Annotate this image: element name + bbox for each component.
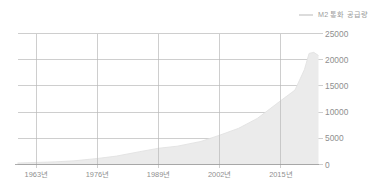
x-axis-labels: 1963년1976년1989년2002년2015년 [0,0,372,196]
chart-container: M2 통화 공급량 0500010000150002000025000 1963… [0,0,372,196]
x-axis-tick-label: 1976년 [86,170,109,179]
x-axis-tick-label: 2015년 [269,170,292,179]
x-axis-tick-label: 1989년 [147,170,170,179]
x-axis-tick-label: 1963년 [25,170,48,179]
x-axis-tick-label: 2002년 [208,170,231,179]
